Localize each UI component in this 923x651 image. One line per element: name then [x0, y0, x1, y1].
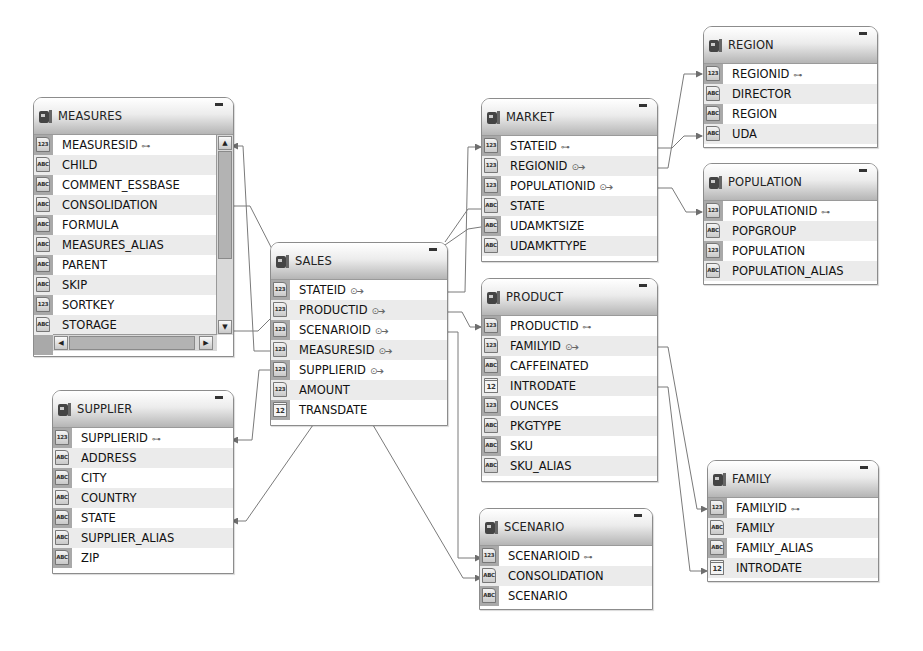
table-header[interactable]: SALES — [271, 243, 447, 280]
numeric-type-icon: 123 — [273, 342, 287, 357]
table-header[interactable]: REGION — [704, 27, 877, 64]
field-row[interactable]: 123POPULATIONID⊶ — [704, 201, 877, 221]
table-icon — [708, 38, 723, 53]
minimize-button[interactable] — [215, 396, 223, 399]
scroll-thumb[interactable] — [218, 151, 232, 259]
field-row[interactable]: ABCUDA — [704, 124, 877, 144]
field-row[interactable]: ABCCONSOLIDATION — [480, 566, 652, 586]
table-header[interactable]: FAMILY — [708, 461, 878, 498]
scroll-left-button[interactable]: ◀ — [54, 336, 68, 350]
table-scenario[interactable]: SCENARIO 123SCENARIOID⊶ ABCCONSOLIDATION… — [479, 508, 653, 610]
horizontal-scrollbar[interactable]: ◀ ▶ — [53, 334, 217, 351]
minimize-button[interactable] — [860, 466, 868, 469]
minimize-button[interactable] — [639, 284, 647, 287]
field-row[interactable]: ABCUDAMKTSIZE — [482, 216, 657, 236]
field-row[interactable]: 12INTRODATE — [482, 376, 657, 396]
table-region[interactable]: REGION 123REGIONID⊶ ABCDIRECTOR ABCREGIO… — [703, 26, 878, 148]
field-row[interactable]: ABCPKGTYPE — [482, 416, 657, 436]
table-header[interactable]: SCENARIO — [480, 509, 652, 546]
field-row[interactable]: 123POPULATIONID⊙➔ — [482, 176, 657, 196]
field-row[interactable]: ABCFAMILY — [708, 518, 878, 538]
vertical-scrollbar[interactable]: ▲ ▼ — [216, 135, 233, 335]
field-row[interactable]: ABCUDAMKTTYPE — [482, 236, 657, 256]
field-row[interactable]: 123SUPPLIERID⊶ — [53, 428, 233, 448]
field-row[interactable]: 123REGIONID⊶ — [704, 64, 877, 84]
link-sales-market — [447, 147, 481, 292]
foreign-key-icon: ⊙➔ — [350, 286, 363, 296]
field-row[interactable]: ABCSTORAGE — [34, 315, 233, 335]
field-row[interactable]: ABCSCENARIO — [480, 586, 652, 606]
table-supplier[interactable]: SUPPLIER 123SUPPLIERID⊶ ABCADDRESS ABCCI… — [52, 390, 234, 574]
field-row[interactable]: 123STATEID⊶ — [482, 136, 657, 156]
numeric-type-icon: 123 — [706, 203, 720, 218]
field-row[interactable]: ABCPOPGROUP — [704, 221, 877, 241]
table-title: MEASURES — [58, 109, 122, 123]
field-row[interactable]: 123REGIONID⊙➔ — [482, 156, 657, 176]
table-population[interactable]: POPULATION 123POPULATIONID⊶ ABCPOPGROUP … — [703, 163, 878, 285]
text-type-icon: ABC — [36, 217, 50, 232]
field-row[interactable]: ABCFAMILY_ALIAS — [708, 538, 878, 558]
field-row[interactable]: 12TRANSDATE — [271, 400, 447, 420]
field-row[interactable]: ABCCHILD — [34, 155, 233, 175]
table-header[interactable]: PRODUCT — [482, 279, 657, 316]
field-row[interactable]: ABCZIP — [53, 548, 233, 568]
table-header[interactable]: SUPPLIER — [53, 391, 233, 428]
minimize-button[interactable] — [859, 32, 867, 35]
field-row[interactable]: 123SCENARIOID⊙➔ — [271, 320, 447, 340]
field-row[interactable]: ABCDIRECTOR — [704, 84, 877, 104]
field-row[interactable]: 123MEASURESID⊙➔ — [271, 340, 447, 360]
scroll-up-button[interactable]: ▲ — [218, 136, 232, 150]
field-row[interactable]: 123PRODUCTID⊶ — [482, 316, 657, 336]
field-row[interactable]: ABCSTATE — [53, 508, 233, 528]
field-row[interactable]: ABCFORMULA — [34, 215, 233, 235]
field-row[interactable]: ABCSUPPLIER_ALIAS — [53, 528, 233, 548]
field-row[interactable]: ABCSKU — [482, 436, 657, 456]
table-product[interactable]: PRODUCT 123PRODUCTID⊶ 123FAMILYID⊙➔ ABCC… — [481, 278, 658, 482]
field-row[interactable]: ABCSTATE — [482, 196, 657, 216]
field-row[interactable]: 123SUPPLIERID⊙➔ — [271, 360, 447, 380]
field-row[interactable]: ABCCOUNTRY — [53, 488, 233, 508]
table-header[interactable]: MARKET — [482, 99, 657, 136]
field-row[interactable]: 123STATEID⊙➔ — [271, 280, 447, 300]
field-row[interactable]: 123MEASURESID⊶ — [34, 135, 233, 155]
field-row[interactable]: ABCCITY — [53, 468, 233, 488]
minimize-button[interactable] — [634, 514, 642, 517]
field-row[interactable]: 123POPULATION — [704, 241, 877, 261]
link-sales-consolidation — [373, 425, 481, 578]
field-row[interactable]: ABCPARENT — [34, 255, 233, 275]
field-row[interactable]: 123PRODUCTID⊙➔ — [271, 300, 447, 320]
table-measures[interactable]: MEASURES 123MEASURESID⊶ ABCCHILD ABCCOMM… — [33, 97, 234, 357]
scroll-down-button[interactable]: ▼ — [218, 320, 232, 334]
table-header[interactable]: POPULATION — [704, 164, 877, 201]
scroll-right-button[interactable]: ▶ — [199, 336, 213, 350]
field-row[interactable]: ABCCAFFEINATED — [482, 356, 657, 376]
field-row[interactable]: 123SCENARIOID⊶ — [480, 546, 652, 566]
field-row[interactable]: 123AMOUNT — [271, 380, 447, 400]
text-type-icon: ABC — [706, 126, 720, 141]
scroll-thumb-horizontal[interactable] — [69, 336, 195, 350]
table-sales[interactable]: SALES 123STATEID⊙➔ 123PRODUCTID⊙➔ 123SCE… — [270, 242, 448, 426]
table-family[interactable]: FAMILY 123FAMILYID⊶ ABCFAMILY ABCFAMILY_… — [707, 460, 879, 582]
field-row[interactable]: ABCCOMMENT_ESSBASE — [34, 175, 233, 195]
table-icon — [275, 254, 290, 269]
field-row[interactable]: ABCSKIP — [34, 275, 233, 295]
date-type-icon: 12 — [484, 378, 498, 393]
text-type-icon: ABC — [706, 86, 720, 101]
table-header[interactable]: MEASURES — [34, 98, 233, 135]
field-row[interactable]: ABCMEASURES_ALIAS — [34, 235, 233, 255]
field-row[interactable]: 123OUNCES — [482, 396, 657, 416]
minimize-button[interactable] — [639, 104, 647, 107]
field-row[interactable]: 123SORTKEY — [34, 295, 233, 315]
minimize-button[interactable] — [429, 248, 437, 251]
minimize-button[interactable] — [215, 103, 223, 106]
field-row[interactable]: ABCPOPULATION_ALIAS — [704, 261, 877, 281]
field-row[interactable]: ABCADDRESS — [53, 448, 233, 468]
field-row[interactable]: ABCSKU_ALIAS — [482, 456, 657, 476]
table-market[interactable]: MARKET 123STATEID⊶ 123REGIONID⊙➔ 123POPU… — [481, 98, 658, 262]
field-row[interactable]: ABCCONSOLIDATION — [34, 195, 233, 215]
minimize-button[interactable] — [859, 169, 867, 172]
field-row[interactable]: 123FAMILYID⊙➔ — [482, 336, 657, 356]
field-row[interactable]: ABCREGION — [704, 104, 877, 124]
field-row[interactable]: 123FAMILYID⊶ — [708, 498, 878, 518]
field-row[interactable]: 12INTRODATE — [708, 558, 878, 578]
